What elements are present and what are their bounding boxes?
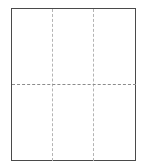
vertical-guide-right bbox=[93, 9, 94, 161]
vertical-guide-left bbox=[52, 9, 53, 161]
diagram-canvas bbox=[0, 0, 146, 162]
horizontal-guide-middle bbox=[12, 84, 136, 85]
